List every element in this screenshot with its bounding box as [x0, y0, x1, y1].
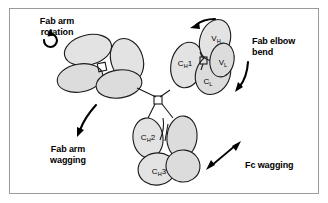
vh-domain-label: VH — [211, 34, 220, 43]
hinge-link-fc-left — [148, 104, 155, 118]
ch1-domain-label: CH1 — [178, 59, 192, 68]
hinge-link-left — [137, 88, 156, 97]
ch3-domain-label: CH3 — [152, 167, 166, 176]
fab-wagging-arrow-icon — [77, 105, 96, 137]
fc-region — [131, 115, 202, 188]
fc-wagging-arrow-icon — [206, 141, 241, 170]
elbow-side-arrow-icon — [235, 62, 248, 92]
fab-arm-wagging-label: Fab arm wagging — [36, 144, 100, 166]
hinge-region — [137, 88, 173, 118]
hinge-link-fc-right — [162, 104, 173, 118]
antibody-flexibility-figure: VH VL CH1 CL CH2 CH3 Fab arm rotation Fa… — [0, 0, 328, 203]
ch2-domain-label: CH2 — [141, 133, 155, 142]
fc-wagging-label: Fc wagging — [245, 160, 315, 171]
left-fab-arm — [55, 30, 149, 101]
fab-arm-rotation-label: Fab arm rotation — [26, 16, 88, 38]
vl-domain-label: VL — [219, 58, 227, 67]
cl-domain-label: CL — [204, 77, 213, 86]
fab-elbow-bend-label: Fab elbow bend — [252, 36, 314, 58]
left-fab-center-square — [97, 62, 106, 71]
